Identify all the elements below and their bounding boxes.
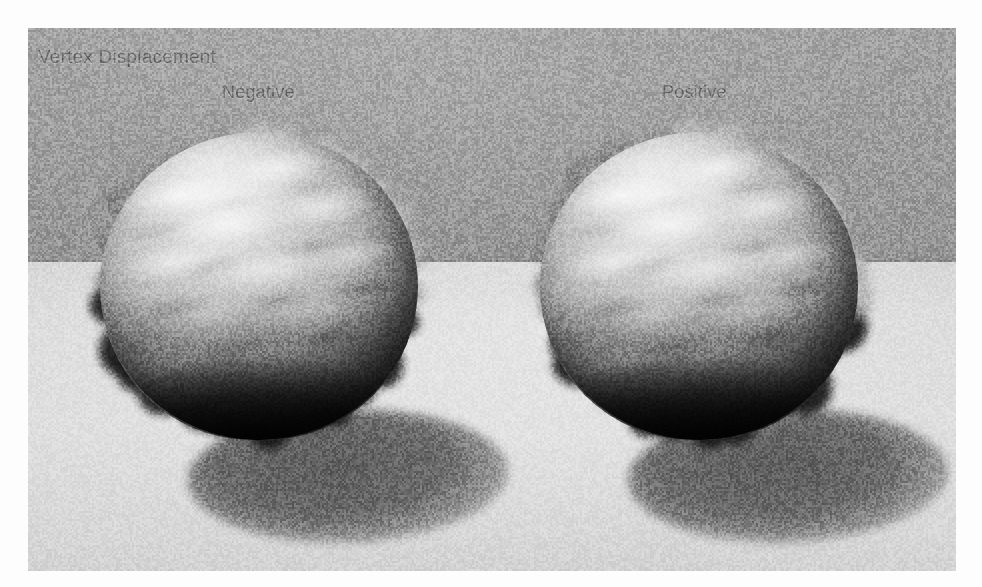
- sphere-body-negative: [100, 132, 418, 440]
- render-page: Vertex Displacement Negative Positive: [0, 0, 982, 587]
- page-title: Vertex Displacement: [38, 46, 216, 68]
- label-positive: Positive: [662, 82, 727, 103]
- displaced-sphere-negative: [100, 132, 418, 440]
- sphere-body-positive: [540, 132, 858, 440]
- blob-sheen-positive: [540, 132, 858, 440]
- blob-sheen-negative: [100, 132, 418, 440]
- render-viewport: Vertex Displacement Negative Positive: [28, 28, 956, 571]
- label-negative: Negative: [222, 82, 295, 103]
- displaced-sphere-positive: [540, 132, 858, 440]
